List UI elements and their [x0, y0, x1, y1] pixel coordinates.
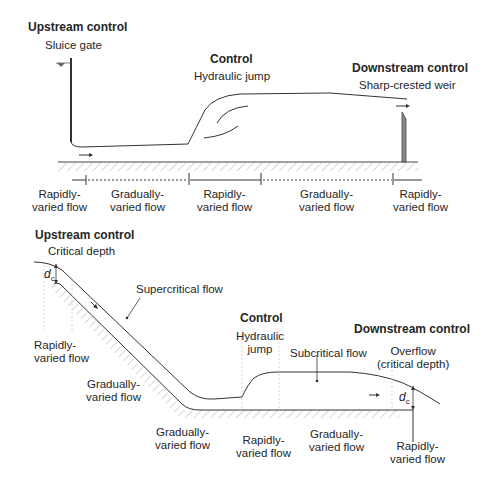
top-control-subtitle: Hydraulic jump: [194, 70, 270, 83]
bottom-region-4: Rapidly-varied flow: [236, 434, 291, 460]
bottom-region-6: Rapidly-varied flow: [390, 440, 445, 466]
dc-label-downstream: dc: [399, 391, 410, 408]
bottom-downstream-control-title: Downstream control: [354, 323, 470, 336]
top-region-markers: [72, 173, 422, 185]
bottom-region-2: Gradually-varied flow: [86, 378, 141, 404]
top-upstream-control-title: Upstream control: [28, 21, 127, 34]
top-region-1: Rapidly-varied flow: [32, 188, 87, 214]
subcritical-flow-label: Subcritical flow: [290, 347, 367, 360]
bottom-control-title: Control: [240, 312, 283, 325]
bottom-upstream-control-title: Upstream control: [35, 229, 134, 242]
top-region-4: Gradually-varied flow: [299, 188, 354, 214]
bottom-upstream-control-subtitle: Critical depth: [48, 245, 115, 258]
top-downstream-control-title: Downstream control: [352, 62, 468, 75]
supercritical-flow-label: Supercritical flow: [136, 283, 223, 296]
top-control-title: Control: [210, 53, 253, 66]
bottom-control-subtitle: Hydraulicjump: [236, 330, 284, 356]
top-upstream-control-subtitle: Sluice gate: [45, 39, 102, 52]
bottom-region-3: Gradually-varied flow: [155, 426, 210, 452]
top-region-3: Rapidly-varied flow: [197, 188, 252, 214]
top-region-5: Rapidly-varied flow: [393, 188, 448, 214]
dc-label-upstream: dc: [44, 268, 55, 285]
top-downstream-control-subtitle: Sharp-crested weir: [359, 79, 456, 92]
bottom-region-5: Gradually-varied flow: [309, 428, 364, 454]
bottom-region-1: Rapidly-varied flow: [34, 339, 89, 365]
overflow-label: Overflow(critical depth): [377, 345, 449, 371]
top-region-2: Gradually-varied flow: [110, 188, 165, 214]
